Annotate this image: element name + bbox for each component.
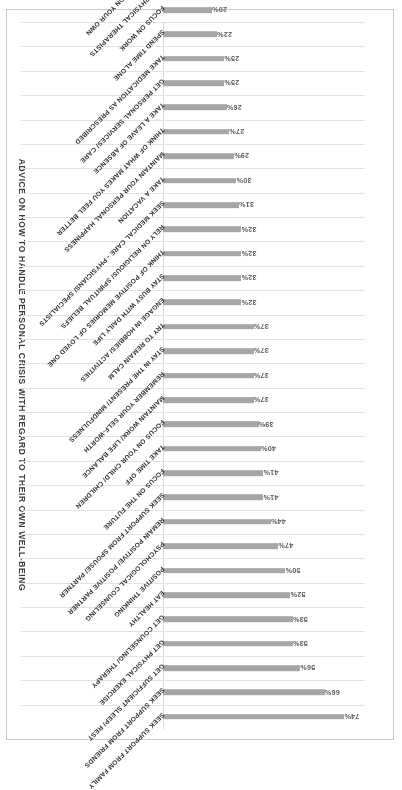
bar-group: 66% — [163, 680, 344, 704]
bar-value-label: 37% — [254, 322, 269, 331]
bar-value-label: 31% — [239, 200, 254, 209]
bar-value-label: 32% — [241, 274, 256, 283]
bar-group: 20% — [163, 0, 231, 22]
bar-group: 41% — [163, 485, 282, 509]
bar-group: 30% — [163, 168, 256, 192]
bar — [163, 519, 271, 525]
chart-row: 37%REMEMBER YOUR SELF-WORTH — [21, 363, 365, 387]
bar-group: 53% — [163, 632, 312, 656]
bar-group: 37% — [163, 339, 273, 363]
bar-value-label: 44% — [271, 517, 286, 526]
bar-value-label: 66% — [325, 688, 340, 697]
chart-frame: ADVICE ON HOW TO HANDLE PERSONAL CRISIS … — [6, 9, 394, 740]
bar-group: 37% — [163, 315, 273, 339]
bar — [163, 80, 224, 86]
bar-value-label: 41% — [263, 469, 278, 478]
bar-value-label: 53% — [293, 615, 308, 624]
bar — [163, 227, 241, 233]
chart-row: 41%FOCUS ON THE FUTURE — [21, 461, 365, 485]
bar — [163, 617, 293, 623]
bar-group: 32% — [163, 217, 260, 241]
bar-group: 47% — [163, 534, 297, 558]
bar-group: 32% — [163, 266, 260, 290]
rotated-chart-canvas: ADVICE ON HOW TO HANDLE PERSONAL CRISIS … — [7, 10, 395, 741]
bar — [163, 714, 344, 720]
chart-row: 30%TAKE A VACATION — [21, 168, 365, 192]
bar-value-label: 53% — [293, 639, 308, 648]
chart-row: 29%MAINTAIN YOUR PERSONAL HAPPINESS — [21, 144, 365, 168]
bar — [163, 129, 229, 135]
chart-row: 22%SPEND TIME ALONE — [21, 22, 365, 46]
bar-group: 25% — [163, 71, 243, 95]
bar — [163, 56, 224, 62]
bar-value-label: 32% — [241, 298, 256, 307]
bar-group: 27% — [163, 120, 248, 144]
bar-group: 74% — [163, 705, 363, 729]
bar-value-label: 37% — [254, 371, 269, 380]
bar — [163, 422, 259, 428]
bar — [163, 543, 278, 549]
chart-row: 20%FOCUS ON WORK — [21, 0, 365, 22]
bar-value-label: 27% — [229, 127, 244, 136]
bar-value-label: 50% — [286, 566, 301, 575]
bar-value-label: 26% — [227, 103, 242, 112]
bar-value-label: 32% — [241, 249, 256, 258]
bar-value-label: 74% — [344, 712, 359, 721]
bar-value-label: 32% — [241, 225, 256, 234]
bar-group: 32% — [163, 242, 260, 266]
bar-value-label: 22% — [217, 30, 232, 39]
bar-group: 22% — [163, 22, 236, 46]
bar-value-label: 25% — [224, 79, 239, 88]
bar-group: 31% — [163, 193, 258, 217]
bar-group: 53% — [163, 607, 312, 631]
bar — [163, 446, 261, 452]
bar-value-label: 29% — [234, 152, 249, 161]
bar — [163, 373, 254, 379]
bar-value-label: 20% — [212, 5, 227, 14]
chart-row: 74%SEEK SUPPORT FROM FAMILY — [21, 705, 365, 729]
bar — [163, 275, 241, 281]
bar-value-label: 41% — [263, 493, 278, 502]
bar-group: 29% — [163, 144, 253, 168]
bar-value-label: 25% — [224, 54, 239, 63]
bar — [163, 324, 254, 330]
bar-group: 41% — [163, 461, 282, 485]
chart-row: 47%PSYCHOLOGICAL COUNSELING — [21, 534, 365, 558]
bar — [163, 495, 263, 501]
bar-value-label: 37% — [254, 347, 269, 356]
bar-group: 52% — [163, 583, 309, 607]
bar-group: 26% — [163, 95, 246, 119]
chart-row: 66%SEEK SUPPORT FROM FRIENDS — [21, 680, 365, 704]
bar-group: 25% — [163, 47, 243, 71]
bar-value-label: 47% — [278, 542, 293, 551]
bar — [163, 397, 254, 403]
bar — [163, 300, 241, 306]
chart-row: 56%GET SUFFICIENT SLEEP/ REST — [21, 656, 365, 680]
chart-row: 53%GET PHYSICAL EXERCISE — [21, 632, 365, 656]
bar — [163, 690, 325, 696]
bar — [163, 202, 239, 208]
bar — [163, 105, 227, 111]
bar-value-label: 30% — [237, 176, 252, 185]
bar — [163, 7, 212, 13]
bar-group: 44% — [163, 510, 290, 534]
bar — [163, 178, 237, 184]
chart-row: 44%REMAIN POSITIVE/ POSITIVE PARTNER — [21, 510, 365, 534]
bar-group: 37% — [163, 388, 273, 412]
bar — [163, 251, 241, 257]
bar-group: 39% — [163, 412, 278, 436]
bar-value-label: 37% — [254, 395, 269, 404]
chart-row: 25%TAKE MEDICATION AS PRESCRIBED — [21, 47, 365, 71]
bar-value-label: 39% — [259, 420, 274, 429]
bar-group: 40% — [163, 437, 280, 461]
bar-value-label: 40% — [261, 444, 276, 453]
bar-group: 50% — [163, 558, 305, 582]
plot-area: 74%SEEK SUPPORT FROM FAMILY66%SEEK SUPPO… — [21, 22, 365, 729]
chart-row: 26%TAKE A LEAVE OF ABSENCE — [21, 95, 365, 119]
bar-value-label: 56% — [300, 664, 315, 673]
chart-row: 25%GET PERSONAL SERVICES/ CARE — [21, 71, 365, 95]
chart-row: 37%MAINTAIN WORK/ LIFE BALANCE — [21, 388, 365, 412]
bar — [163, 641, 293, 647]
bar — [163, 665, 300, 671]
